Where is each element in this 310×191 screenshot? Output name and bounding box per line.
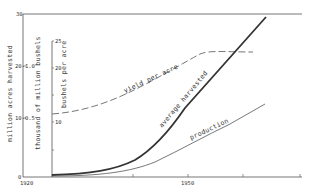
- axis-title-bushels-acre: bushels per acre: [60, 41, 68, 108]
- left-tick-20: 20-1.0: [15, 63, 35, 69]
- axis-title-bushels-total: thousand of million bushels: [34, 36, 42, 150]
- line-chart: 1920 1950 30 20-1.0 10-0.5 0 25 20 10 mi…: [0, 0, 310, 191]
- x-tick-1950: 1950: [181, 180, 194, 186]
- axis-title-acres: million acres harvested: [6, 45, 14, 142]
- inner-tick-10: 10: [55, 119, 62, 125]
- x-tick-1920: 1920: [20, 180, 33, 186]
- left-tick-30: 30: [16, 11, 23, 17]
- left-axis-ticks: [23, 66, 26, 118]
- series-average-harvested: [52, 17, 266, 175]
- label-production: production: [188, 117, 230, 142]
- label-yield-per-acre: yield per acre: [122, 63, 179, 95]
- series-yield-per-acre: [52, 52, 253, 115]
- left-tick-10: 10-0.5: [15, 115, 35, 121]
- left-tick-0: 0: [18, 174, 21, 180]
- label-average-harvested: average harvested: [157, 69, 209, 129]
